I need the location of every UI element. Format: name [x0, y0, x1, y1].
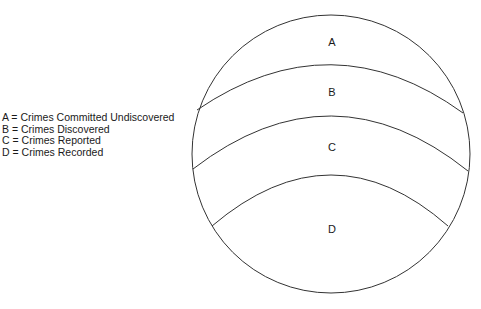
divider-c-d	[212, 175, 448, 226]
region-label-c: C	[328, 141, 336, 153]
region-label-a: A	[328, 36, 336, 48]
region-label-b: B	[328, 86, 335, 98]
crime-funnel-diagram: A B C D	[0, 0, 481, 309]
region-label-d: D	[328, 223, 336, 235]
outer-circle	[192, 15, 470, 293]
